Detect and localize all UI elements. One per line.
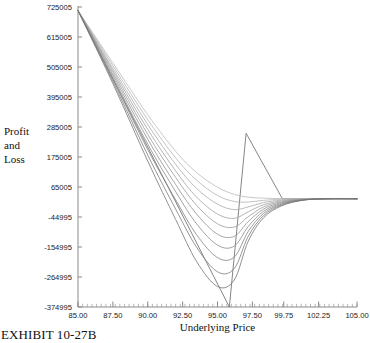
chart-series-decay-curve-2 (78, 11, 357, 203)
y-axis-title-line: and (4, 139, 20, 151)
y-tick-label: 395005 (47, 93, 72, 102)
chart-series-decay-curve-6 (78, 11, 357, 238)
y-tick-label: 615005 (47, 33, 72, 42)
x-axis-title: Underlying Price (180, 321, 256, 333)
y-tick-label: 175005 (47, 153, 72, 162)
chart-series-expiration-payoff (78, 11, 357, 307)
x-tick-label: 92.50 (173, 311, 192, 320)
exhibit-figure: 7250056150055050053950052850051750056500… (0, 0, 370, 343)
y-tick-label: 65005 (51, 183, 72, 192)
y-axis-title-line: Profit (4, 125, 29, 137)
x-tick-label: 85.00 (68, 311, 87, 320)
y-axis-title-line: Loss (4, 153, 25, 165)
chart-series-decay-curve-7 (78, 11, 357, 249)
x-tick-label: 97.50 (243, 311, 262, 320)
y-tick-label: 285005 (47, 123, 72, 132)
x-tick-label: 90.00 (138, 311, 157, 320)
y-tick-label: -264995 (44, 273, 72, 282)
y-tick-label: -44995 (48, 213, 72, 222)
profit-loss-chart: 7250056150055050053950052850051750056500… (0, 0, 370, 343)
x-tick-label: 95.00 (208, 311, 227, 320)
chart-series-decay-curve-8 (78, 11, 357, 261)
x-tick-label: 87.50 (103, 311, 122, 320)
x-tick-label: 105.00 (345, 311, 368, 320)
y-tick-label: 505005 (47, 63, 72, 72)
y-tick-label: -154995 (44, 243, 72, 252)
exhibit-caption: EXHIBIT 10-27B (1, 327, 96, 343)
x-tick-label: 102.25 (307, 311, 330, 320)
y-tick-label: 725005 (47, 3, 72, 12)
chart-series-decay-curve-10 (78, 11, 357, 288)
x-tick-label: 99.75 (274, 311, 293, 320)
chart-series-decay-curve-3 (78, 11, 357, 210)
chart-series-decay-curve-1 (78, 11, 357, 199)
